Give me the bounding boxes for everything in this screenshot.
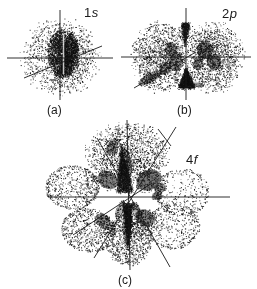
orbital-label-4f-number: 4 bbox=[186, 152, 194, 167]
orbital-label-4f-letter: f bbox=[194, 152, 198, 167]
orbital-stipple-drawing bbox=[0, 0, 257, 289]
orbital-label-2p: 2p bbox=[222, 6, 237, 21]
panel-caption-c: (c) bbox=[118, 273, 132, 287]
panel-caption-b: (b) bbox=[177, 103, 192, 117]
orbital-label-1s-letter: s bbox=[92, 5, 99, 20]
orbital-label-2p-letter: p bbox=[230, 6, 238, 21]
orbital-label-1s-number: 1 bbox=[84, 5, 92, 20]
orbital-label-1s: 1s bbox=[84, 5, 99, 20]
orbital-label-2p-number: 2 bbox=[222, 6, 230, 21]
orbital-label-4f: 4f bbox=[186, 152, 198, 167]
panel-caption-a: (a) bbox=[47, 103, 62, 117]
orbital-figure: 1s 2p 4f (a) (b) (c) bbox=[0, 0, 257, 289]
